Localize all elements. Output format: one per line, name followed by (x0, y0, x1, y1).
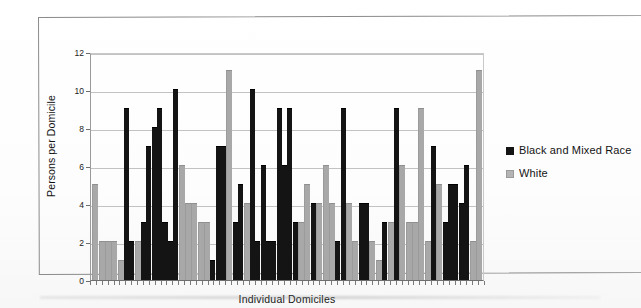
x-tick-mark (266, 281, 267, 285)
bar-1 (92, 184, 98, 280)
bar-3 (105, 241, 111, 280)
bar-24 (226, 70, 232, 280)
x-tick-mark (396, 281, 397, 285)
x-tick-mark (290, 281, 291, 285)
bar-21 (210, 260, 215, 280)
x-tick-mark (284, 281, 285, 285)
x-tick-mark (449, 281, 450, 285)
bar-39 (311, 203, 316, 280)
bar-37 (298, 222, 304, 280)
bar-52 (388, 222, 394, 280)
legend-swatch-black-icon (506, 147, 514, 155)
bar-53 (394, 108, 399, 280)
bar-41 (323, 165, 329, 280)
bar-59 (431, 146, 436, 280)
x-tick-mark (219, 281, 220, 285)
bar-45 (346, 203, 352, 280)
x-tick-mark (313, 281, 314, 285)
bar-27 (244, 203, 250, 280)
x-tick-mark (125, 281, 126, 285)
x-tick-mark (408, 281, 409, 285)
bar-40 (316, 203, 322, 280)
x-tick-mark (337, 281, 338, 285)
x-tick-mark (184, 281, 185, 285)
x-tick-mark (166, 281, 167, 285)
x-tick-mark (437, 281, 438, 285)
bar-8 (135, 241, 141, 280)
bar-2 (99, 241, 105, 280)
bar-49 (369, 241, 375, 280)
x-tick-mark (243, 281, 244, 285)
x-tick-mark (402, 281, 403, 285)
x-tick-mark (466, 281, 467, 285)
bar-17 (185, 203, 191, 280)
x-tick-mark (172, 281, 173, 285)
x-tick-mark (213, 281, 214, 285)
x-tick-mark (261, 281, 262, 285)
y-tick-label: 6 (64, 163, 84, 172)
x-tick-mark (137, 281, 138, 285)
x-tick-mark (455, 281, 456, 285)
legend-swatch-white-icon (506, 170, 514, 178)
bar-54 (399, 165, 405, 280)
bar-48 (364, 203, 369, 280)
x-tick-mark (361, 281, 362, 285)
x-tick-mark (119, 281, 120, 285)
bar-38 (304, 184, 310, 280)
bar-12 (157, 108, 162, 280)
x-tick-mark (325, 281, 326, 285)
x-tick-mark (355, 281, 356, 285)
bar-19 (198, 222, 204, 280)
scan-artifact (40, 296, 600, 299)
x-tick-mark (96, 281, 97, 285)
x-tick-mark (190, 281, 191, 285)
x-tick-mark (366, 281, 367, 285)
y-tick-mark (86, 53, 90, 54)
plot-area (90, 53, 484, 281)
x-tick-mark (102, 281, 103, 285)
bar-28 (250, 89, 255, 280)
y-tick-mark (86, 91, 90, 92)
x-tick-mark (319, 281, 320, 285)
bar-65 (464, 165, 469, 280)
bar-55 (406, 222, 412, 280)
chart-legend: Black and Mixed Race White (506, 145, 631, 191)
bar-44 (341, 108, 346, 280)
x-tick-mark (390, 281, 391, 285)
x-tick-mark (249, 281, 250, 285)
y-tick-label: 2 (64, 239, 84, 248)
y-tick-label: 8 (64, 125, 84, 134)
y-tick-mark (86, 167, 90, 168)
x-tick-mark (231, 281, 232, 285)
bar-18 (191, 203, 197, 280)
bar-35 (287, 108, 292, 280)
x-tick-mark (302, 281, 303, 285)
x-tick-mark (149, 281, 150, 285)
bar-14 (168, 241, 173, 280)
bar-64 (459, 203, 464, 280)
bar-15 (173, 89, 178, 280)
bar-31 (266, 241, 271, 280)
bar-7 (129, 241, 134, 280)
x-tick-mark (143, 281, 144, 285)
x-tick-mark (225, 281, 226, 285)
bar-58 (425, 241, 431, 280)
bar-60 (436, 184, 442, 280)
bar-20 (204, 222, 210, 280)
bar-26 (238, 184, 243, 280)
bar-47 (359, 203, 364, 280)
bar-23 (221, 146, 226, 280)
legend-item-black-and-mixed-race: Black and Mixed Race (506, 145, 631, 156)
legend-label-white: White (519, 168, 548, 179)
bar-36 (293, 222, 298, 280)
bar-series-container (91, 54, 483, 280)
bar-63 (453, 184, 458, 280)
x-tick-mark (202, 281, 203, 285)
x-tick-mark (372, 281, 373, 285)
y-tick-mark (86, 243, 90, 244)
y-tick-mark (86, 205, 90, 206)
bar-62 (448, 184, 453, 280)
y-tick-mark (86, 129, 90, 130)
x-axis-title: Individual Domiciles (90, 293, 484, 305)
x-axis-ticks (90, 281, 484, 286)
